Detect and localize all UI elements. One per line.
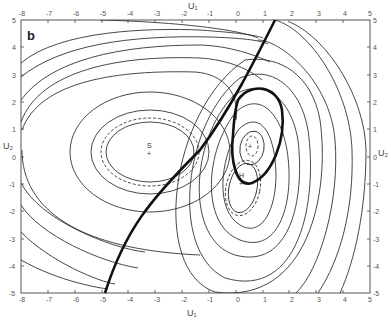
x-tick: -7 [46, 10, 52, 17]
tick-marks [21, 20, 370, 293]
x-tick: -5 [100, 296, 106, 303]
y-tick: 5 [12, 17, 16, 24]
y-tick: -3 [373, 236, 379, 243]
contour-h-9 [290, 22, 366, 293]
contour-h-1 [224, 161, 262, 216]
y-tick: -4 [9, 263, 15, 270]
y-tick: -2 [373, 208, 379, 215]
contour-h-8 [275, 20, 352, 293]
y-tick: 2 [373, 99, 377, 106]
x-axis-label-bottom: U₁ [187, 308, 197, 318]
y-tick: 4 [12, 44, 16, 51]
y-ticks-left: 5 4 3 2 1 0 -1 -2 -3 -4 -5 [9, 17, 16, 297]
y-tick: -2 [9, 208, 15, 215]
y-tick: -4 [373, 263, 379, 270]
x-ticks-bottom: -8 -7 -6 -5 -4 -3 -2 -1 0 1 2 3 4 5 [19, 296, 372, 303]
x-tick: 0 [236, 10, 240, 17]
y-tick: 0 [373, 154, 377, 161]
y-tick: 2 [12, 99, 16, 106]
x-ticks-top: -8 -7 -6 -5 -4 -3 -2 -1 0 1 2 3 4 5 [19, 10, 372, 17]
x-tick: 2 [290, 296, 294, 303]
x-tick: 1 [263, 10, 267, 17]
x-tick: 2 [290, 10, 294, 17]
y-tick: 5 [373, 17, 377, 24]
contour-plot: S + + H + b U₁ U₁ U₂ U₂ -8 -7 -6 -5 -4 -… [0, 0, 391, 324]
contour-bot-2 [21, 205, 138, 268]
y-tick: 3 [373, 72, 377, 79]
x-tick: 5 [368, 296, 372, 303]
y-tick: 4 [373, 44, 377, 51]
contour-top-4 [21, 29, 263, 63]
y-tick: 1 [12, 126, 16, 133]
x-tick: 3 [317, 10, 321, 17]
x-tick: 4 [343, 10, 347, 17]
point-s-label: S [147, 142, 152, 149]
y-tick: -3 [9, 236, 15, 243]
point-h-marker: + [239, 180, 243, 187]
y-axis-label-right: U₂ [378, 148, 388, 158]
y-tick: -1 [9, 181, 15, 188]
contour-top-5 [100, 20, 258, 38]
x-tick: -5 [100, 10, 106, 17]
x-tick: -6 [73, 296, 79, 303]
thick-boundary-curve [105, 20, 275, 293]
y-tick: 0 [12, 154, 16, 161]
point-s: S + [147, 142, 152, 157]
x-tick: -7 [46, 296, 52, 303]
panel-label: b [27, 28, 35, 43]
point-h: H + [239, 172, 244, 187]
contour-h-4 [199, 89, 299, 258]
contour-h-3 [211, 104, 289, 243]
x-tick: 1 [263, 296, 267, 303]
point-upper-marker: + [248, 143, 252, 150]
y-tick: 1 [373, 126, 377, 133]
x-tick: 0 [236, 296, 240, 303]
y-tick: -5 [9, 290, 15, 297]
x-tick: -3 [154, 10, 160, 17]
point-s-marker: + [147, 150, 151, 157]
x-tick: -6 [73, 10, 79, 17]
point-h-label: H [239, 172, 244, 179]
x-tick: -2 [181, 10, 187, 17]
x-tick: -3 [154, 296, 160, 303]
y-tick: 3 [12, 72, 16, 79]
y-tick: -5 [373, 290, 379, 297]
x-tick: -8 [19, 10, 25, 17]
point-upper: + [248, 143, 252, 150]
x-tick: -4 [127, 296, 133, 303]
x-tick: 3 [317, 296, 321, 303]
contour-h-2 [223, 122, 276, 228]
y-axis-label-left: U₂ [3, 141, 13, 151]
plot-frame [21, 20, 370, 293]
x-axis-label-top: U₁ [188, 1, 198, 11]
x-tick: 5 [368, 10, 372, 17]
y-tick: -1 [373, 181, 379, 188]
x-tick: -2 [181, 296, 187, 303]
x-tick: 4 [343, 296, 347, 303]
thick-closed-loop [232, 89, 282, 184]
contour-h-5 [190, 74, 311, 281]
x-tick: -1 [207, 10, 213, 17]
x-tick: -4 [127, 10, 133, 17]
x-tick: -1 [207, 296, 213, 303]
x-tick: -8 [19, 296, 25, 303]
